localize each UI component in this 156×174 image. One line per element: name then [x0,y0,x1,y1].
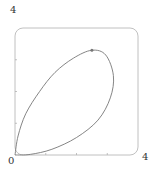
plot-frame [15,28,138,155]
plot-area [0,0,156,174]
peak-marker [90,49,93,52]
loop-curve [15,50,114,155]
